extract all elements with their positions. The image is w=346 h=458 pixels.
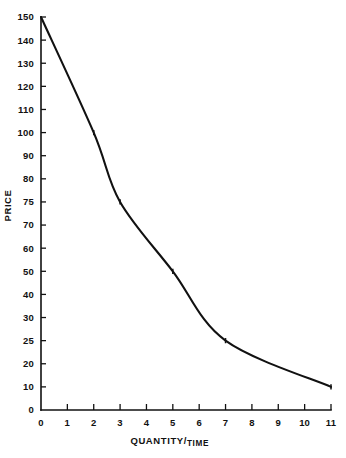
demand-curve-line <box>41 17 331 387</box>
x-axis-title-main: QUANTITY/ <box>130 435 187 446</box>
x-tick-label: 0 <box>38 417 43 428</box>
y-tick-label: 140 <box>18 35 34 46</box>
y-tick-label: 120 <box>18 81 34 92</box>
y-tick-label: 30 <box>23 312 34 323</box>
y-tick-label: 25 <box>23 335 34 346</box>
y-tick-label: 60 <box>23 243 34 254</box>
y-tick-label: 10 <box>23 381 34 392</box>
x-tick-label: 7 <box>223 417 228 428</box>
chart-canvas: 1501401301201101009080757060504030252010… <box>0 0 346 458</box>
x-tick-label: 2 <box>91 417 96 428</box>
x-tick-label: 6 <box>196 417 201 428</box>
y-tick-label: 80 <box>23 173 34 184</box>
x-tick-label: 8 <box>249 417 254 428</box>
data-point-markers <box>94 130 331 389</box>
y-tick-label: 70 <box>23 219 34 230</box>
x-tick-label: 9 <box>276 417 281 428</box>
y-tick-label: 100 <box>18 127 34 138</box>
x-axis-ticks <box>67 404 331 410</box>
data-series-group <box>41 17 331 387</box>
x-tick-label: 4 <box>144 417 150 428</box>
y-tick-label: 150 <box>18 11 34 22</box>
x-axis-tick-labels: 01234567891011 <box>38 417 336 428</box>
x-tick-label: 5 <box>170 417 176 428</box>
y-tick-label: 110 <box>18 104 34 115</box>
y-axis-title: PRICE <box>2 189 13 221</box>
x-axis-title-sub: TIME <box>187 439 209 448</box>
axes-group <box>41 17 331 410</box>
x-tick-label: 11 <box>326 417 337 428</box>
y-tick-label: 130 <box>18 58 34 69</box>
x-tick-label: 1 <box>65 417 71 428</box>
y-tick-label: 40 <box>23 289 34 300</box>
y-tick-label: 20 <box>23 358 34 369</box>
x-tick-label: 10 <box>299 417 310 428</box>
y-tick-label: 50 <box>23 266 34 277</box>
y-axis-tick-labels: 1501401301201101009080757060504030252010… <box>18 11 35 415</box>
y-tick-label: 0 <box>29 404 34 415</box>
x-tick-label: 3 <box>117 417 122 428</box>
demand-curve-figure: 1501401301201101009080757060504030252010… <box>0 0 346 458</box>
y-tick-label: 90 <box>23 150 34 161</box>
y-tick-label: 75 <box>23 196 34 207</box>
